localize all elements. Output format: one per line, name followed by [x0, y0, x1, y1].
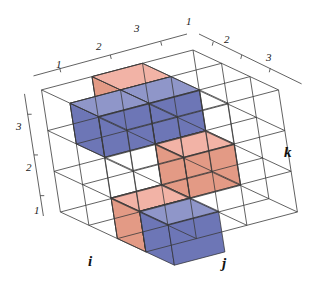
j-tick-2: 2: [224, 33, 230, 45]
grid-line: [161, 42, 162, 46]
lattice-figure: 1 2 3 1 2 3 3 2 1 i j k: [0, 0, 326, 308]
grid-line: [42, 90, 61, 212]
axis-label-j: j: [220, 255, 227, 271]
grid-line: [212, 172, 298, 212]
i-tick-1: 1: [56, 58, 62, 70]
axis-label-k: k: [284, 144, 292, 160]
j-tick-3: 3: [265, 51, 272, 63]
grid-line: [110, 55, 111, 59]
lattice-svg: 1 2 3 1 2 3 3 2 1 i j k: [0, 0, 326, 308]
grid-line: [241, 55, 242, 59]
k-tick-3: 3: [15, 120, 22, 132]
cubes-layer: [70, 63, 241, 265]
k-tick-2: 2: [26, 161, 32, 173]
i-tick-2: 2: [96, 40, 102, 52]
j-tick-1: 1: [186, 15, 192, 27]
i-tick-3: 3: [133, 22, 140, 34]
grid-line: [54, 171, 140, 211]
axis-label-i: i: [88, 253, 93, 269]
grid-line: [212, 42, 213, 46]
grid-line: [269, 68, 270, 72]
k-tick-1: 1: [34, 204, 40, 216]
grid-line: [199, 91, 284, 131]
